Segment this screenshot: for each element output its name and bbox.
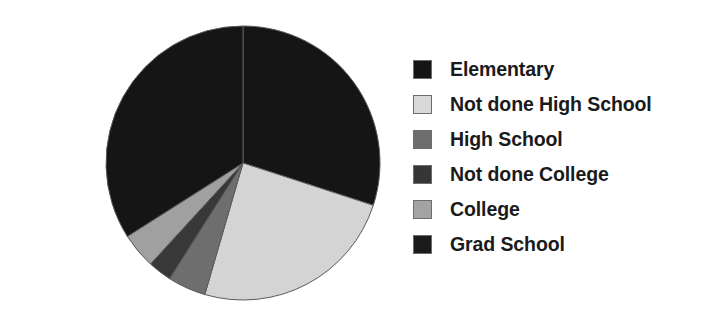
legend-swatch-not-done-college (413, 165, 432, 184)
legend-item-high-school[interactable]: High School (413, 122, 703, 157)
legend-item-grad-school[interactable]: Grad School (413, 227, 703, 262)
legend-item-elementary[interactable]: Elementary (413, 52, 703, 87)
legend-swatch-college (413, 200, 432, 219)
legend-swatch-high-school (413, 130, 432, 149)
legend-label-high-school: High School (450, 130, 563, 150)
legend-item-college[interactable]: College (413, 192, 703, 227)
pie-chart-figure: Elementary Not done High School High Sch… (0, 0, 707, 314)
legend-label-not-done-high-school: Not done High School (450, 95, 652, 115)
legend-swatch-not-done-high-school (413, 95, 432, 114)
legend-label-grad-school: Grad School (450, 235, 565, 255)
pie-slice-group (106, 26, 380, 300)
chart-legend: Elementary Not done High School High Sch… (413, 52, 703, 262)
pie-chart-svg (0, 0, 400, 314)
pie-chart-plot-area (0, 0, 400, 314)
legend-label-elementary: Elementary (450, 60, 554, 80)
legend-item-not-done-college[interactable]: Not done College (413, 157, 703, 192)
legend-item-not-done-high-school[interactable]: Not done High School (413, 87, 703, 122)
legend-swatch-grad-school (413, 235, 432, 254)
legend-label-not-done-college: Not done College (450, 165, 609, 185)
legend-label-college: College (450, 200, 520, 220)
legend-swatch-elementary (413, 60, 432, 79)
